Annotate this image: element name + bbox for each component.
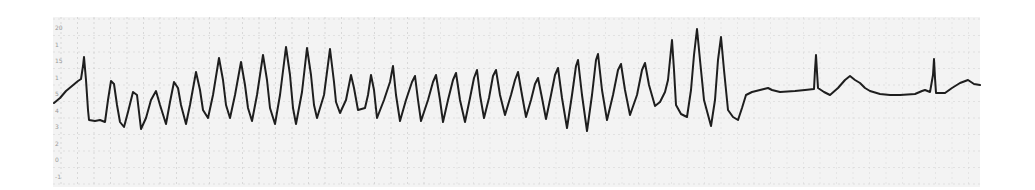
ecg-waveform [54,29,980,131]
ecg-trace [0,0,1035,190]
